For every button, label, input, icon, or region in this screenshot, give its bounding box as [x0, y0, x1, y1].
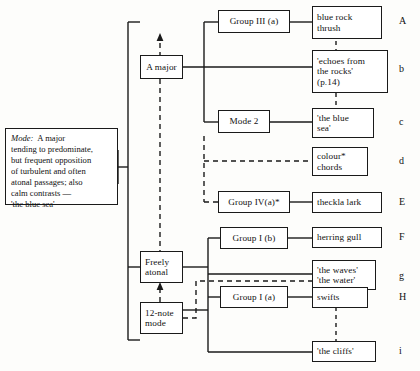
- box-colour-chords-line-0: colour*: [317, 151, 346, 161]
- box-group-i-b-label: Group I (b): [233, 233, 276, 243]
- box-the-blue-sea[interactable]: 'the blue sea': [312, 108, 374, 138]
- box-swifts-label: swifts: [317, 292, 340, 302]
- mode-note-line-6: 'the blue sea': [11, 199, 112, 210]
- row-label-b: b: [399, 63, 404, 74]
- mode-note-line-3: of turbulent and often: [11, 166, 112, 177]
- box-a-major[interactable]: A major: [140, 55, 183, 79]
- box-the-cliffs-label: 'the cliffs': [317, 346, 354, 356]
- box-group-iii-a-label: Group III (a): [230, 16, 279, 26]
- box-group-iv-a[interactable]: Group IV(a)*: [218, 191, 290, 213]
- mode-note-line-0: Mode: A major: [11, 133, 112, 144]
- row-label-e: E: [399, 196, 405, 207]
- row-label-c: c: [399, 116, 403, 127]
- box-mode-2[interactable]: Mode 2: [218, 110, 270, 133]
- box-blue-rock-thrush[interactable]: blue rock thrush: [312, 6, 382, 39]
- box-freely-atonal-line-0: Freely: [145, 257, 169, 267]
- box-blue-rock-thrush-line-1: thrush: [317, 23, 341, 33]
- box-herring-gull[interactable]: herring gull: [312, 227, 382, 248]
- box-twelve-note-mode[interactable]: 12-note mode: [140, 302, 183, 334]
- box-twelve-note-line-1: mode: [145, 318, 166, 328]
- mode-note-line-4: atonal passages; also: [11, 177, 112, 188]
- box-the-waves-the-water[interactable]: 'the waves' 'the water': [312, 260, 376, 290]
- box-colour-chords-line-1: chords: [317, 162, 342, 172]
- row-label-h: H: [399, 291, 406, 302]
- box-the-blue-sea-line-1: sea': [317, 123, 331, 133]
- box-thekla-lark[interactable]: theckla lark: [312, 192, 382, 213]
- box-a-major-line-0: A major: [146, 62, 177, 72]
- box-twelve-note-line-0: 12-note: [145, 308, 174, 318]
- row-label-a: A: [399, 15, 406, 26]
- box-herring-gull-label: herring gull: [317, 232, 361, 242]
- row-label-d: d: [399, 155, 404, 166]
- box-blue-rock-thrush-line-0: blue rock: [317, 12, 352, 22]
- box-waves-line-1: 'the water': [317, 275, 355, 285]
- box-freely-atonal-line-1: atonal: [145, 267, 168, 277]
- box-thekla-lark-label: theckla lark: [317, 197, 361, 207]
- diagram-canvas: Mode: A major tending to predominate, bu…: [0, 0, 420, 371]
- mode-note-line-2: but frequent opposition: [11, 155, 112, 166]
- box-echoes-line-0: 'echoes from: [317, 56, 365, 66]
- box-mode-2-label: Mode 2: [230, 116, 259, 126]
- row-label-g: g: [399, 270, 404, 281]
- box-group-i-b[interactable]: Group I (b): [220, 227, 288, 249]
- row-label-f: F: [399, 231, 405, 242]
- box-group-i-a[interactable]: Group I (a): [220, 286, 288, 308]
- box-freely-atonal[interactable]: Freely atonal: [140, 251, 183, 283]
- box-echoes-line-2: (p.14): [317, 77, 340, 87]
- box-the-cliffs[interactable]: 'the cliffs': [312, 341, 376, 362]
- box-swifts[interactable]: swifts: [312, 287, 368, 308]
- arrowhead-amajor-up: [157, 33, 164, 41]
- box-waves-line-0: 'the waves': [317, 265, 358, 275]
- arrowhead-freely-atonal-up: [157, 282, 164, 290]
- box-echoes-line-1: the rocks': [317, 66, 353, 76]
- box-group-iii-a[interactable]: Group III (a): [218, 10, 290, 33]
- box-the-blue-sea-line-0: 'the blue: [317, 113, 349, 123]
- box-echoes-from-the-rocks[interactable]: 'echoes from the rocks' (p.14): [312, 50, 388, 93]
- box-group-i-a-label: Group I (a): [233, 292, 275, 302]
- box-group-iv-a-label: Group IV(a)*: [228, 197, 279, 207]
- box-colour-chords[interactable]: colour* chords: [312, 147, 368, 176]
- mode-note-line-1: tending to predominate,: [11, 144, 112, 155]
- mode-note-line-5: calm contrasts —: [11, 188, 112, 199]
- mode-note-box: Mode: A major tending to predominate, bu…: [5, 128, 118, 205]
- row-label-i: i: [399, 345, 402, 356]
